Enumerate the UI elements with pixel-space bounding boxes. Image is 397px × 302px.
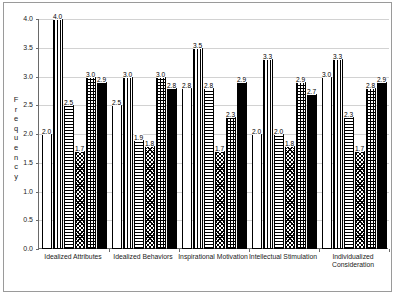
- y-axis-tick-label: 1.0: [11, 188, 33, 195]
- y-axis-tick-label: 3.5: [11, 44, 33, 51]
- bar[interactable]: 3.0: [86, 77, 96, 250]
- bar[interactable]: 2.5: [112, 105, 122, 249]
- bar[interactable]: 3.3: [333, 59, 343, 249]
- y-axis-tick-label: 0.5: [11, 216, 33, 223]
- bar[interactable]: 2.0: [274, 134, 284, 249]
- bar[interactable]: 2.8: [167, 88, 177, 249]
- bar[interactable]: 2.0: [252, 134, 262, 249]
- bar[interactable]: 3.3: [263, 59, 273, 249]
- x-axis-category-label: Individualized Consideration: [318, 253, 388, 270]
- bar-value-label: 3.0: [322, 71, 332, 78]
- y-axis-tick-label: 2.5: [11, 101, 33, 108]
- bar[interactable]: 2.9: [377, 82, 387, 249]
- bar-group: 2.83.52.81.72.32.9: [179, 19, 249, 249]
- bar-value-label: 2.8: [366, 82, 376, 89]
- bar-value-label: 3.0: [156, 71, 166, 78]
- x-axis-category-label: Intellectual Stimulation: [248, 253, 318, 270]
- bar[interactable]: 3.0: [123, 77, 133, 250]
- x-axis-category-label: Inspirational Motivation: [178, 253, 248, 270]
- x-axis-tick-mark: [109, 249, 110, 252]
- bar-value-label: 2.9: [237, 76, 247, 83]
- bar-value-label: 2.9: [377, 76, 387, 83]
- bar[interactable]: 2.0: [42, 134, 52, 249]
- bar-value-label: 2.8: [182, 82, 192, 89]
- x-axis-tick-mark: [179, 249, 180, 252]
- bar-value-label: 2.8: [167, 82, 177, 89]
- bar[interactable]: 1.8: [145, 146, 155, 250]
- y-axis-label-char: e: [10, 114, 22, 124]
- bar-value-label: 3.0: [123, 71, 133, 78]
- y-axis-tick-label: 4.0: [11, 15, 33, 22]
- x-axis-tick-mark: [249, 249, 250, 252]
- bar-value-label: 2.9: [97, 76, 107, 83]
- bar-groups: 2.04.02.51.73.02.92.53.01.91.83.02.82.83…: [39, 19, 389, 249]
- bar[interactable]: 2.9: [237, 82, 247, 249]
- bar-value-label: 3.3: [333, 53, 343, 60]
- x-axis-category-label: Idealized Attributes: [38, 253, 108, 270]
- bar-value-label: 1.7: [355, 145, 365, 152]
- bar[interactable]: 2.9: [296, 82, 306, 249]
- bar[interactable]: 2.3: [226, 117, 236, 249]
- bar-value-label: 2.3: [344, 111, 354, 118]
- bar[interactable]: 1.8: [285, 146, 295, 250]
- x-axis-category-label: Idealized Behaviors: [108, 253, 178, 270]
- bar[interactable]: 3.0: [156, 77, 166, 250]
- y-axis-tick-label: 1.5: [11, 159, 33, 166]
- bar[interactable]: 4.0: [53, 19, 63, 249]
- bar-value-label: 1.8: [145, 140, 155, 147]
- y-axis-label-char: e: [10, 143, 22, 153]
- bar-value-label: 1.8: [285, 140, 295, 147]
- bar[interactable]: 2.3: [344, 117, 354, 249]
- bar[interactable]: 1.7: [355, 151, 365, 249]
- bar[interactable]: 2.8: [182, 88, 192, 249]
- bar-group-bars: 2.04.02.51.73.02.9: [39, 19, 109, 249]
- bar-value-label: 1.9: [134, 134, 144, 141]
- bar[interactable]: 2.8: [366, 88, 376, 249]
- bar[interactable]: 2.5: [64, 105, 74, 249]
- bar-group-bars: 2.53.01.91.83.02.8: [109, 19, 179, 249]
- bar[interactable]: 1.7: [75, 151, 85, 249]
- bar[interactable]: 2.9: [97, 82, 107, 249]
- bar-value-label: 3.3: [263, 53, 273, 60]
- bar-value-label: 3.0: [86, 71, 96, 78]
- bar-value-label: 2.8: [204, 82, 214, 89]
- y-axis-tick-label: 0.0: [11, 245, 33, 252]
- bar-group: 2.53.01.91.83.02.8: [109, 19, 179, 249]
- bar-value-label: 2.3: [226, 111, 236, 118]
- bar-value-label: 4.0: [53, 13, 63, 20]
- bar-value-label: 3.5: [193, 42, 203, 49]
- x-axis-tick-mark: [319, 249, 320, 252]
- bar-group-bars: 2.83.52.81.72.32.9: [179, 19, 249, 249]
- bar-value-label: 1.7: [75, 145, 85, 152]
- bar-value-label: 1.7: [215, 145, 225, 152]
- x-axis-labels: Idealized AttributesIdealized BehaviorsI…: [38, 253, 388, 270]
- chart-frame: Frequency 0.00.51.01.52.02.53.03.54.0 2.…: [3, 2, 392, 292]
- bar[interactable]: 2.8: [204, 88, 214, 249]
- bar-value-label: 2.7: [307, 88, 317, 95]
- x-axis-tick-mark: [389, 249, 390, 252]
- bar[interactable]: 3.0: [322, 77, 332, 250]
- bar[interactable]: 3.5: [193, 48, 203, 249]
- bar-value-label: 2.0: [274, 128, 284, 135]
- plot-area: 0.00.51.01.52.02.53.03.54.0 2.04.02.51.7…: [38, 19, 388, 249]
- bar[interactable]: 2.7: [307, 94, 317, 249]
- bar[interactable]: 1.9: [134, 140, 144, 249]
- bar-value-label: 2.0: [252, 128, 262, 135]
- bar-group: 2.03.32.01.82.92.7: [249, 19, 319, 249]
- y-axis-tick-mark: [36, 249, 39, 250]
- y-axis-tick-label: 3.0: [11, 73, 33, 80]
- bar-value-label: 2.9: [296, 76, 306, 83]
- bar-group: 3.03.32.31.72.82.9: [319, 19, 389, 249]
- y-axis-tick-label: 2.0: [11, 130, 33, 137]
- bar-value-label: 2.5: [112, 99, 122, 106]
- bar-value-label: 2.0: [42, 128, 52, 135]
- bar-group: 2.04.02.51.73.02.9: [39, 19, 109, 249]
- bar-group-bars: 3.03.32.31.72.82.9: [319, 19, 389, 249]
- bar[interactable]: 1.7: [215, 151, 225, 249]
- y-axis-label-char: y: [10, 172, 22, 182]
- bar-value-label: 2.5: [64, 99, 74, 106]
- bar-group-bars: 2.03.32.01.82.92.7: [249, 19, 319, 249]
